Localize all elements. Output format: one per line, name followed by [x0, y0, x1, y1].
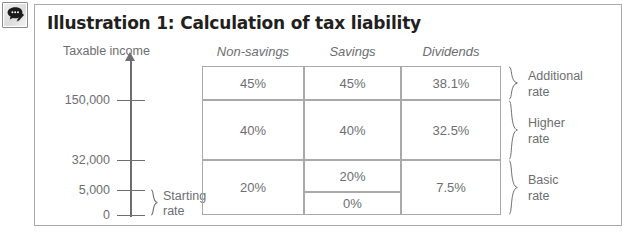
axis-tick-label-150000: 150,000 [38, 93, 110, 107]
figure-title: Illustration 1: Calculation of tax liabi… [47, 13, 421, 33]
cell-additional-non-savings: 45% [202, 66, 304, 100]
band-label-additional-line2: rate [528, 86, 583, 99]
cell-basic-savings-lower: 0% [304, 192, 401, 215]
axis-tick-label-32000: 32,000 [38, 153, 110, 167]
cell-additional-savings: 45% [304, 66, 401, 100]
cell-basic-savings-upper: 20% [304, 160, 401, 192]
axis-tick-32000 [117, 160, 145, 161]
band-label-basic-line2: rate [528, 190, 559, 203]
band-label-additional-rate: Additional rate [528, 70, 583, 98]
axis-line [130, 59, 132, 217]
column-header-savings: Savings [304, 44, 401, 59]
cell-basic-non-savings: 20% [202, 160, 304, 215]
cell-higher-dividends: 32.5% [401, 100, 501, 160]
annotation-tool-icon[interactable] [2, 2, 28, 28]
cell-higher-savings: 40% [304, 100, 401, 160]
axis-tick-label-5000: 5,000 [38, 183, 110, 197]
starting-rate-label-line2: rate [163, 205, 206, 218]
axis-tick-5000 [117, 190, 145, 191]
brace-icon [508, 66, 519, 100]
cell-basic-dividends: 7.5% [401, 160, 501, 215]
additional-rate-brace [508, 66, 519, 100]
starting-rate-label-line1: Starting [163, 190, 206, 203]
band-label-additional-line1: Additional [528, 70, 583, 83]
band-label-basic-rate: Basic rate [528, 174, 559, 202]
axis-tick-0 [117, 215, 145, 216]
band-label-basic-line1: Basic [528, 174, 559, 187]
basic-rate-brace [508, 160, 519, 215]
cell-higher-non-savings: 40% [202, 100, 304, 160]
column-header-non-savings: Non-savings [202, 44, 304, 59]
axis-tick-label-0: 0 [38, 208, 110, 222]
axis-tick-150000 [117, 100, 145, 101]
band-label-higher-rate: Higher rate [528, 117, 565, 145]
tax-rate-table: Non-savings Savings Dividends 45% 45% 38… [202, 66, 501, 215]
brace-icon [508, 100, 519, 160]
cell-additional-dividends: 38.1% [401, 66, 501, 100]
brace-icon [150, 189, 159, 216]
column-header-dividends: Dividends [401, 44, 501, 59]
brace-icon [508, 160, 519, 215]
starting-rate-label: Starting rate [163, 190, 206, 217]
axis-title: Taxable income [63, 44, 150, 58]
comment-pencil-icon [5, 5, 25, 25]
starting-rate-brace [150, 189, 159, 216]
higher-rate-brace [508, 100, 519, 160]
band-label-higher-line1: Higher [528, 117, 565, 130]
band-label-higher-line2: rate [528, 133, 565, 146]
